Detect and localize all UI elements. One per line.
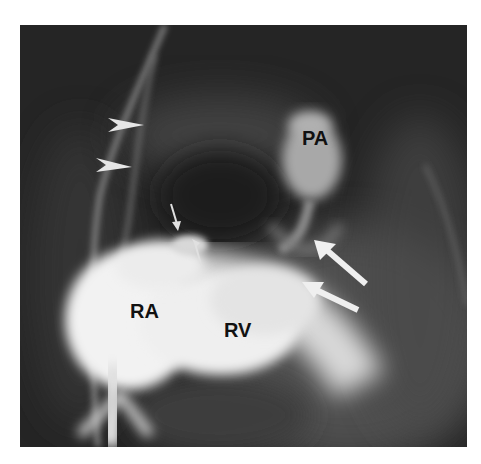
label-rv: RV [224, 319, 251, 342]
small-arrow-icon [168, 202, 182, 232]
arrow-icon [302, 280, 362, 320]
label-pa: PA [302, 127, 328, 150]
angiogram-rendering [20, 25, 467, 447]
arrowhead-icon [96, 155, 136, 175]
small-arrow-icon [190, 237, 204, 267]
label-ra: RA [130, 300, 159, 323]
arrowhead-icon [108, 115, 148, 135]
angiogram-image: PA RA RV [20, 25, 467, 447]
